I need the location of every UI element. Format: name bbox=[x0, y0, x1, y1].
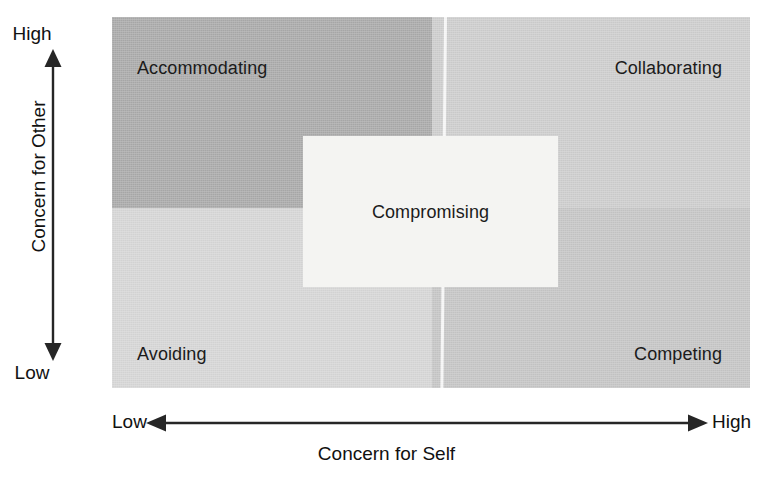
quadrant-label-collaborating: Collaborating bbox=[615, 59, 722, 77]
x-axis-double-arrow-icon bbox=[146, 412, 708, 434]
y-axis-title: Concern for Other bbox=[29, 87, 48, 267]
quadrant-label-competing: Competing bbox=[634, 345, 722, 363]
x-axis-low-tick-label: Low bbox=[112, 412, 147, 431]
x-axis: Low High Concern for Self bbox=[0, 388, 773, 482]
quadrant-label-accommodating: Accommodating bbox=[137, 59, 267, 77]
quadrant-label-avoiding: Avoiding bbox=[137, 345, 207, 363]
quadrant-compromising-box: Compromising bbox=[303, 136, 558, 287]
y-axis: High Concern for Other Low bbox=[0, 17, 112, 388]
x-axis-title: Concern for Self bbox=[0, 444, 773, 463]
x-axis-high-tick-label: High bbox=[712, 412, 751, 431]
y-axis-high-tick-label: High bbox=[0, 24, 88, 43]
conflict-grid-figure: Accommodating Collaborating Avoiding Com… bbox=[0, 0, 773, 482]
plot-area: Accommodating Collaborating Avoiding Com… bbox=[112, 17, 750, 388]
y-axis-low-tick-label: Low bbox=[0, 363, 88, 382]
quadrant-label-compromising: Compromising bbox=[372, 203, 489, 221]
